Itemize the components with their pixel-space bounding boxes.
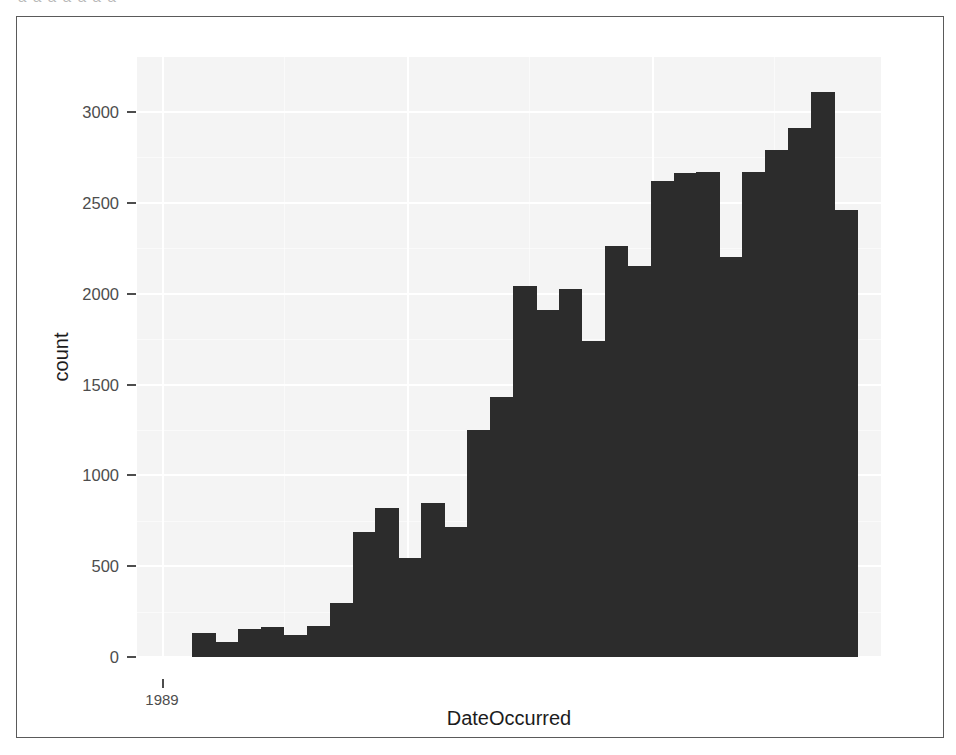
gridline-minor-vertical: [284, 57, 285, 657]
histogram-bar: [398, 558, 422, 657]
histogram-bar: [215, 642, 239, 657]
histogram-bar: [765, 150, 789, 657]
histogram-bar: [490, 397, 514, 657]
y-axis-tick-mark: [127, 384, 136, 386]
histogram-bar: [307, 626, 331, 657]
y-axis-tick-mark: [127, 293, 136, 295]
x-axis-tick-label: 1989: [145, 691, 178, 708]
histogram-bar: [605, 246, 629, 657]
x-axis-tick-mark: [162, 679, 164, 688]
y-axis-tick-mark: [127, 565, 136, 567]
figure-frame: 050010001500200025003000 count 1989 Date…: [16, 16, 944, 738]
histogram-bar: [696, 172, 720, 657]
histogram-bar: [651, 181, 675, 657]
gridline-major-horizontal: [137, 111, 881, 113]
y-axis-tick-label: 1000: [49, 466, 119, 485]
y-axis-tick-label: 0: [49, 648, 119, 667]
histogram-bar: [536, 310, 560, 657]
histogram-bar: [421, 503, 445, 657]
histogram-bar: [674, 173, 698, 657]
y-axis-tick-mark: [127, 656, 136, 658]
histogram-bar: [284, 635, 308, 657]
histogram-bar: [330, 603, 354, 658]
histogram-bar: [628, 266, 652, 657]
y-axis-tick-label: 3000: [49, 103, 119, 122]
histogram-bar: [834, 210, 858, 657]
histogram-bar: [582, 341, 606, 657]
histogram-bar: [742, 172, 766, 657]
y-axis-tick-mark: [127, 202, 136, 204]
histogram-bar: [788, 128, 812, 657]
histogram-bar: [719, 257, 743, 657]
histogram-bar: [238, 629, 262, 657]
histogram-bar: [513, 286, 537, 658]
y-axis-tick-label: 2500: [49, 193, 119, 212]
histogram-bar: [811, 92, 835, 657]
histogram-bar: [444, 527, 468, 657]
y-axis-title: count: [50, 333, 73, 382]
histogram-bar: [353, 532, 377, 657]
histogram-bar: [559, 289, 583, 657]
histogram-bar: [192, 633, 216, 657]
y-axis-tick-label: 500: [49, 557, 119, 576]
histogram-bar: [261, 627, 285, 657]
caption-bleed: a a a a a a a: [0, 0, 956, 10]
y-axis-tick-mark: [127, 111, 136, 113]
gridline-major-vertical: [162, 57, 164, 657]
x-axis-title: DateOccurred: [447, 707, 572, 730]
plot-panel: [137, 57, 881, 657]
y-axis-tick-mark: [127, 474, 136, 476]
histogram-bar: [467, 430, 491, 657]
y-axis-tick-label: 2000: [49, 284, 119, 303]
histogram-bar: [375, 508, 399, 657]
caption-bleed-text: a a a a a a a: [18, 0, 117, 5]
